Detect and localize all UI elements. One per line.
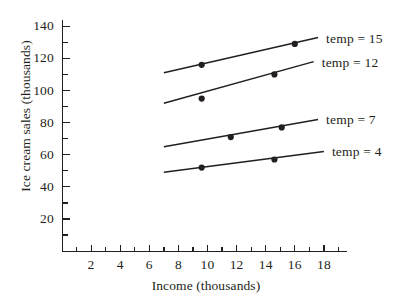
data-point — [199, 62, 205, 68]
series-temp-7 — [164, 119, 318, 146]
regression-line — [164, 119, 318, 146]
legend-label: temp = 7 — [326, 113, 376, 127]
legend-label: temp = 4 — [332, 145, 382, 159]
series-temp-4 — [164, 151, 324, 172]
y-axis-title: Ice cream sales (thousands) — [18, 16, 34, 216]
x-axis-title: Income (thousands) — [96, 278, 316, 294]
data-point — [199, 164, 205, 170]
data-point — [199, 95, 205, 101]
regression-line — [164, 151, 324, 172]
legend-label: temp = 12 — [322, 56, 379, 70]
data-point — [279, 124, 285, 130]
legend-label: temp = 15 — [326, 32, 383, 46]
data-point — [271, 156, 277, 162]
data-point — [292, 41, 298, 47]
data-point — [228, 134, 234, 140]
data-point — [271, 71, 277, 77]
ice-cream-sales-chart: 20406080100120140 24681012141618 temp = … — [0, 0, 411, 307]
